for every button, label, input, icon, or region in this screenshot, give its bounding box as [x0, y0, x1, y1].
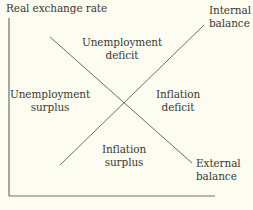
- internal-balance-label-line2: balance: [209, 17, 251, 30]
- internal-balance-label: Internal balance: [209, 4, 251, 30]
- external-balance-label-line2: balance: [196, 170, 241, 183]
- region-inflation-surplus: Inflation surplus: [102, 143, 146, 169]
- region-inflation-deficit: Inflation deficit: [156, 88, 200, 114]
- region-unemployment-deficit: Unemployment deficit: [82, 36, 162, 62]
- region-right-line1: Inflation: [156, 88, 200, 101]
- y-axis-label: Real exchange rate: [6, 2, 107, 15]
- region-right-line2: deficit: [156, 101, 200, 114]
- external-balance-label-line1: External: [196, 157, 241, 170]
- region-left-line1: Unemployment: [10, 88, 90, 101]
- region-bottom-line2: surplus: [102, 156, 146, 169]
- region-unemployment-surplus: Unemployment surplus: [10, 88, 90, 114]
- region-bottom-line1: Inflation: [102, 143, 146, 156]
- external-balance-label: External balance: [196, 157, 241, 183]
- region-top-line1: Unemployment: [82, 36, 162, 49]
- region-top-line2: deficit: [82, 49, 162, 62]
- region-left-line2: surplus: [10, 101, 90, 114]
- internal-balance-label-line1: Internal: [209, 4, 251, 17]
